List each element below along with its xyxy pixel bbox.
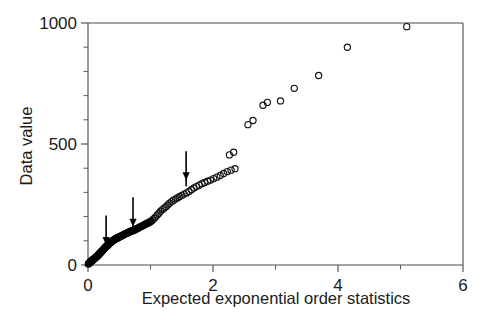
y-axis-ticks [81, 23, 88, 265]
data-point [277, 98, 283, 104]
data-point [228, 167, 234, 173]
data-point [404, 24, 410, 30]
x-tick-label: 0 [83, 276, 92, 295]
y-tick-label: 500 [49, 135, 77, 154]
data-point [250, 117, 256, 123]
data-point [316, 72, 322, 78]
y-tick-label: 0 [68, 256, 77, 275]
x-axis-title: Expected exponential order statistics [142, 289, 411, 307]
scatter-data-points [86, 24, 410, 267]
chart-figure: 05001000 0246 Expected exponential order… [0, 0, 492, 325]
qq-plot-svg: 05001000 0246 Expected exponential order… [0, 0, 492, 325]
y-axis-title: Data value [17, 107, 35, 186]
y-axis-tick-labels: 05001000 [39, 14, 77, 275]
y-tick-label: 1000 [39, 14, 77, 33]
data-point [232, 166, 238, 172]
data-point [291, 85, 297, 91]
x-axis-ticks [88, 265, 463, 272]
annotation-arrow-head [183, 172, 190, 180]
x-tick-label: 6 [458, 276, 467, 295]
data-point [344, 44, 350, 50]
